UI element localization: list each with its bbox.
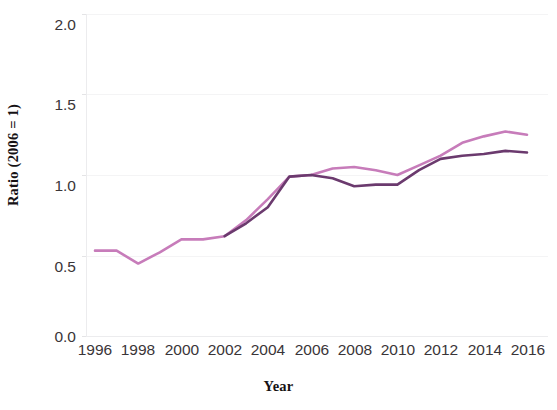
x-tick-label-2006: 2006 [290,341,334,359]
y-tick-label-1-0: 1.0 [30,177,76,195]
x-axis-title: Year [0,378,557,395]
x-tick-label-2010: 2010 [376,341,420,359]
y-tick-label-2-0: 2.0 [30,16,76,34]
x-tick-label-2004: 2004 [246,341,290,359]
x-tick-label-2012: 2012 [419,341,463,359]
x-tick-label-2000: 2000 [160,341,204,359]
x-tick-label-1998: 1998 [116,341,160,359]
x-tick-label-2008: 2008 [333,341,377,359]
x-tick-label-1996: 1996 [73,341,117,359]
y-tick-label-0-0: 0.0 [30,328,76,346]
line-chart: Ratio (2006 = 1) 2.0 1.5 1.0 0.5 0.0 199… [0,0,557,410]
y-tick-label-0-5: 0.5 [30,258,76,276]
plot-area [86,14,548,339]
x-tick-label-2014: 2014 [463,341,507,359]
line-series-dark-purple [225,151,527,236]
y-tick-label-1-5: 1.5 [30,96,76,114]
y-axis-title: Ratio (2006 = 1) [0,0,26,310]
line-series-light-pink [95,132,527,264]
x-tick-label-2002: 2002 [203,341,247,359]
series-svg [86,14,548,339]
x-tick-label-2016: 2016 [506,341,550,359]
